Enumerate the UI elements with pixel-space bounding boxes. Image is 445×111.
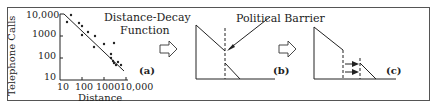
shift-arrow-upper-icon [352, 61, 359, 67]
scatter-points [66, 14, 122, 66]
panel-b-chart [196, 17, 275, 79]
arrow-a-to-b-icon [160, 41, 177, 57]
barrier-pointer [229, 17, 270, 49]
arrow-b-to-c-icon [279, 41, 296, 57]
diagram-graphics [0, 0, 445, 111]
shift-arrow-lower-icon [352, 69, 359, 75]
